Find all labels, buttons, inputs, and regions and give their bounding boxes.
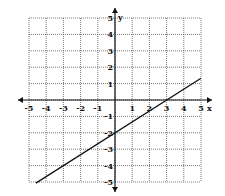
svg-text:5: 5 [198, 103, 204, 113]
svg-text:4: 4 [181, 103, 187, 113]
svg-text:x: x [207, 103, 212, 113]
svg-text:3: 3 [164, 103, 170, 113]
svg-text:2: 2 [107, 62, 113, 72]
coordinate-plane: -5-4-3-2-11234554321-1-2-3-4-5xy [0, 0, 225, 196]
svg-text:5: 5 [107, 13, 113, 23]
svg-text:1: 1 [129, 103, 135, 113]
svg-text:1: 1 [107, 79, 113, 89]
svg-text:-3: -3 [59, 103, 68, 113]
svg-text:y: y [117, 12, 123, 22]
svg-text:4: 4 [107, 29, 113, 39]
axes [18, 8, 212, 192]
svg-text:-2: -2 [76, 103, 85, 113]
svg-text:-5: -5 [104, 177, 113, 187]
svg-text:-4: -4 [104, 161, 113, 171]
svg-text:-4: -4 [42, 103, 51, 113]
svg-text:3: 3 [107, 46, 113, 56]
svg-text:-1: -1 [104, 111, 113, 121]
plotted-line [36, 78, 201, 183]
svg-text:-1: -1 [93, 103, 102, 113]
svg-text:-3: -3 [104, 144, 113, 154]
svg-text:-5: -5 [25, 103, 34, 113]
